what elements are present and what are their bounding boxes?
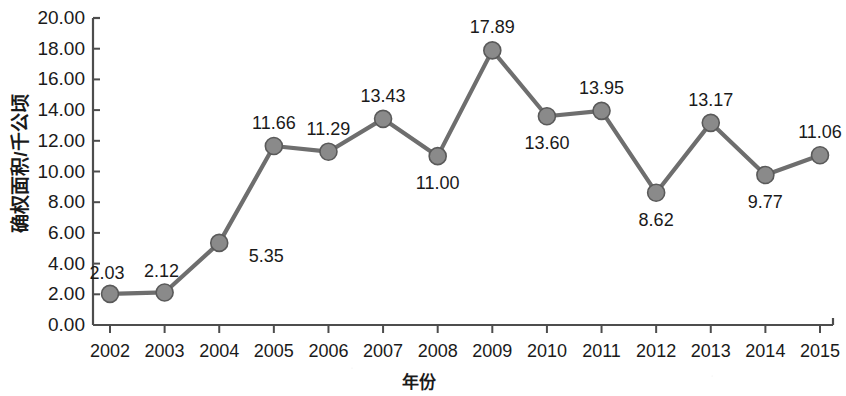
data-point-label: 13.95: [569, 79, 635, 97]
data-point-label: 9.77: [732, 193, 798, 211]
data-point-label: 5.35: [233, 247, 299, 265]
data-marker: [812, 147, 829, 164]
data-marker: [593, 102, 610, 119]
data-point-label: 2.12: [129, 262, 195, 280]
data-marker: [102, 285, 119, 302]
data-series: [110, 50, 820, 293]
data-marker: [757, 167, 774, 184]
data-marker: [429, 148, 446, 165]
data-markers: [102, 42, 829, 302]
data-point-label: 11.00: [405, 174, 471, 192]
data-point-label: 11.06: [787, 123, 846, 141]
data-marker: [265, 138, 282, 155]
data-marker: [484, 42, 501, 59]
data-marker: [320, 143, 337, 160]
data-point-label: 17.89: [459, 18, 525, 36]
data-marker: [375, 110, 392, 127]
data-marker: [648, 184, 665, 201]
data-marker: [702, 114, 719, 131]
data-point-label: 13.43: [350, 87, 416, 105]
data-marker: [211, 234, 228, 251]
data-marker: [156, 284, 173, 301]
data-point-label: 11.29: [295, 120, 361, 138]
data-point-label: 8.62: [623, 211, 689, 229]
data-point-label: 13.60: [514, 134, 580, 152]
data-marker: [538, 108, 555, 125]
data-point-label: 13.17: [678, 91, 744, 109]
